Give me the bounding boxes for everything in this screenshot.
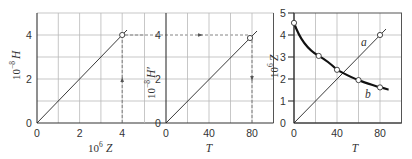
xtick: 80	[246, 127, 258, 139]
svg-text:−8: −8	[8, 61, 17, 69]
line-a-marker	[377, 32, 382, 37]
xtick: 40	[331, 127, 343, 139]
svg-text:Z: Z	[106, 142, 113, 154]
y-axis-label: 10 −8 H	[8, 50, 22, 80]
ytick: 0	[26, 117, 32, 129]
ytick: 0	[155, 117, 161, 129]
line-a	[294, 29, 386, 123]
ytick: 2	[26, 73, 32, 85]
ytick: 5	[280, 7, 286, 19]
x-axis-label: T	[206, 142, 214, 154]
svg-text:−8: −8	[143, 80, 152, 88]
h-z-line	[37, 30, 127, 123]
xtick: 0	[163, 127, 169, 139]
xtick: 0	[291, 127, 297, 139]
xtick: 2	[77, 127, 83, 139]
curve-label-b: b	[365, 88, 371, 100]
y-axis-label: 10 6 Z	[266, 54, 280, 78]
arrow-down-icon	[250, 76, 254, 81]
svg-text:6: 6	[266, 63, 275, 67]
hprime-t-line	[166, 31, 257, 123]
svg-text:10: 10	[268, 67, 280, 79]
figure-canvas: 0 2 4 0 2 4 10 6 Z 10 −8 H	[0, 0, 412, 159]
ytick: 4	[280, 29, 286, 41]
svg-text:10: 10	[145, 88, 157, 100]
xtick: 4	[119, 127, 125, 139]
panel-h-vs-z: 0 2 4 0 2 4 10 6 Z 10 −8 H	[8, 13, 145, 154]
ytick: 3	[280, 51, 286, 63]
svg-text:6: 6	[99, 140, 103, 149]
ytick: 2	[280, 73, 286, 85]
ytick: 1	[280, 95, 286, 107]
xtick: 40	[203, 127, 215, 139]
panel-z-vs-t: a b 0 1 2 3 4 5 0 40 80 T 10 6 Z	[266, 7, 402, 155]
ytick: 4	[155, 29, 161, 41]
x-axis-label: T	[352, 142, 360, 154]
arrow-up-icon	[120, 77, 124, 82]
x-axis-label: 10 6 Z	[88, 140, 113, 154]
xtick: 0	[34, 127, 40, 139]
svg-text:H′: H′	[145, 67, 157, 79]
curve-b	[294, 23, 389, 90]
grid-lines	[145, 13, 274, 123]
y-tick-marks	[288, 13, 294, 101]
data-point	[120, 32, 125, 37]
svg-text:H: H	[10, 50, 22, 60]
ytick: 4	[26, 29, 32, 41]
arrow-right-icon	[198, 33, 203, 37]
panel-hprime-vs-t: 0 2 4 0 40 80 T 10 −8 H′	[143, 13, 274, 154]
xtick: 80	[374, 127, 386, 139]
curve-label-a: a	[361, 36, 367, 48]
svg-text:10: 10	[88, 142, 100, 154]
svg-text:10: 10	[10, 69, 22, 81]
svg-text:Z: Z	[268, 54, 280, 61]
ytick: 0	[280, 117, 286, 129]
data-point	[247, 35, 252, 40]
